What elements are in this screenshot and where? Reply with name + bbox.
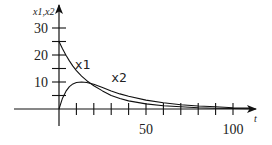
y-tick-labels: 102030	[34, 21, 48, 90]
series-label-x2: x2	[111, 70, 127, 85]
series-lines	[59, 42, 250, 110]
series-line-x1	[59, 42, 250, 109]
chart: 50100 102030 x1x2 x1,x2 t	[0, 0, 272, 145]
y-tick-label: 20	[34, 48, 48, 63]
y-tick-label: 30	[34, 21, 48, 36]
x-axis-label: t	[254, 113, 257, 124]
y-axis-label: x1,x2	[32, 6, 54, 17]
x-tick-label: 100	[223, 122, 244, 137]
series-labels: x1x2	[75, 57, 127, 86]
series-label-x1: x1	[75, 57, 91, 72]
x-tick-label: 50	[139, 122, 153, 137]
x-tick-labels: 50100	[139, 122, 244, 137]
y-tick-label: 10	[34, 75, 48, 90]
